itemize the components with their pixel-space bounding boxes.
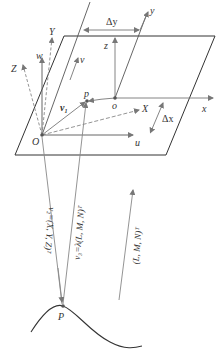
Z-axis-dashed (23, 65, 42, 135)
label-X: X (141, 103, 149, 114)
v-axis-arrow (70, 58, 78, 80)
object-surface-curve (31, 305, 142, 347)
label-w: w (36, 50, 43, 61)
label-Y: Y (49, 26, 56, 37)
diagram-canvas: Y Z w v X u O o p x y z Δy Δx v1 P v₂=(X… (0, 0, 224, 358)
y-axis-line (115, 16, 146, 98)
label-Z: Z (11, 63, 17, 74)
P-point (61, 304, 65, 308)
label-delta-x: Δx (162, 113, 173, 124)
label-u: u (135, 137, 140, 148)
label-LMN: (L, M, N)ᵀ (130, 226, 143, 264)
label-v3-equation: v₃=λ(L, M, N)ᵀ (72, 205, 87, 260)
X-axis-dashed (42, 110, 139, 135)
label-O: O (32, 136, 39, 147)
label-z: z (103, 40, 108, 51)
LMN-direction-vector (119, 190, 133, 300)
label-x: x (201, 103, 207, 114)
v2-ray-arrow (58, 268, 62, 302)
v3-ray (63, 103, 86, 304)
p-point (85, 99, 89, 103)
label-P: P (57, 311, 64, 322)
label-delta-y: Δy (106, 16, 117, 27)
y-axis-arrow (140, 12, 148, 30)
origin-O-point (40, 133, 44, 137)
label-p: p (83, 88, 89, 99)
label-y: y (149, 5, 155, 16)
label-v1: v1 (60, 102, 67, 114)
label-o: o (112, 100, 117, 111)
label-v: v (80, 54, 85, 65)
